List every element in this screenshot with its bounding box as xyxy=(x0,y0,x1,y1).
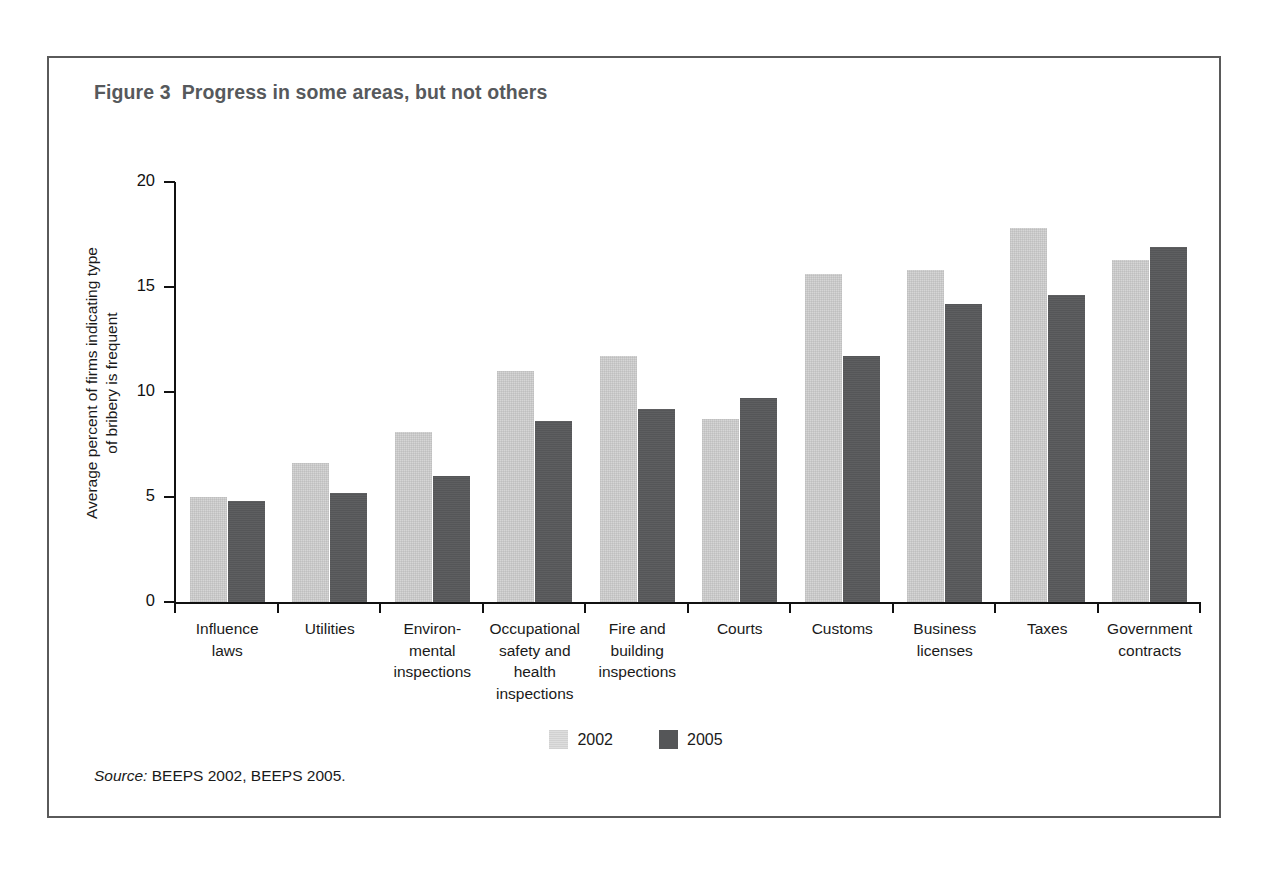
y-axis-tick xyxy=(164,286,175,288)
bar-group xyxy=(176,182,279,602)
x-axis-tick xyxy=(687,604,689,613)
legend-label-2005: 2005 xyxy=(687,731,723,749)
bar-group xyxy=(1099,182,1202,602)
x-axis-tick xyxy=(174,604,176,613)
bar-group xyxy=(689,182,792,602)
bar-group xyxy=(586,182,689,602)
x-axis-tick xyxy=(994,604,996,613)
source-note: Source: BEEPS 2002, BEEPS 2005. xyxy=(94,767,346,785)
y-axis-tick-label: 10 xyxy=(111,381,155,400)
bar-2002 xyxy=(1010,228,1047,602)
y-axis-tick-label: 0 xyxy=(111,591,155,610)
y-axis-tick xyxy=(164,496,175,498)
legend-item-2005: 2005 xyxy=(659,730,723,749)
bar-2005 xyxy=(330,493,367,602)
bar-2005 xyxy=(843,356,880,602)
x-axis-tick xyxy=(789,604,791,613)
bar-2005 xyxy=(1150,247,1187,602)
bar-2005 xyxy=(535,421,572,602)
chart-legend: 20022005 xyxy=(49,730,1223,749)
x-axis-tick xyxy=(584,604,586,613)
y-axis-label-line1: Average percent of firms indicating type xyxy=(82,218,102,548)
legend-swatch-2005 xyxy=(659,730,678,749)
y-axis-tick-label: 20 xyxy=(111,171,155,190)
source-label: Source: xyxy=(94,767,147,784)
figure-frame: Figure 3 Progress in some areas, but not… xyxy=(47,56,1221,818)
bar-2005 xyxy=(1048,295,1085,602)
x-axis-tick xyxy=(1097,604,1099,613)
y-axis-tick xyxy=(164,181,175,183)
legend-label-2002: 2002 xyxy=(577,731,613,749)
bar-2002 xyxy=(907,270,944,602)
x-axis-tick xyxy=(892,604,894,613)
chart-plot-area: Average percent of firms indicating type… xyxy=(49,58,1223,820)
bar-2002 xyxy=(702,419,739,602)
bar-2005 xyxy=(740,398,777,602)
bar-2002 xyxy=(292,463,329,602)
y-axis-tick xyxy=(164,391,175,393)
bar-2002 xyxy=(600,356,637,602)
x-axis-tick xyxy=(482,604,484,613)
bar-2005 xyxy=(945,304,982,602)
bar-group xyxy=(791,182,894,602)
x-axis-category-label: Government contracts xyxy=(1090,618,1211,661)
bar-group xyxy=(381,182,484,602)
bar-group xyxy=(484,182,587,602)
bar-series-container xyxy=(176,182,1201,602)
y-axis-tick xyxy=(164,601,175,603)
x-axis-tick xyxy=(1199,604,1201,613)
bar-2005 xyxy=(638,409,675,602)
y-axis-tick-label: 15 xyxy=(111,276,155,295)
bar-2002 xyxy=(1112,260,1149,602)
bar-group xyxy=(894,182,997,602)
bar-group xyxy=(996,182,1099,602)
source-value: BEEPS 2002, BEEPS 2005. xyxy=(152,767,346,784)
x-axis-tick xyxy=(379,604,381,613)
x-axis-tick xyxy=(277,604,279,613)
bar-2002 xyxy=(190,497,227,602)
bar-group xyxy=(279,182,382,602)
bar-2005 xyxy=(228,501,265,602)
bar-2002 xyxy=(497,371,534,602)
y-axis-tick-label: 5 xyxy=(111,486,155,505)
bar-2002 xyxy=(395,432,432,602)
legend-item-2002: 2002 xyxy=(549,730,613,749)
bar-2002 xyxy=(805,274,842,602)
bar-2005 xyxy=(433,476,470,602)
legend-swatch-2002 xyxy=(549,730,568,749)
